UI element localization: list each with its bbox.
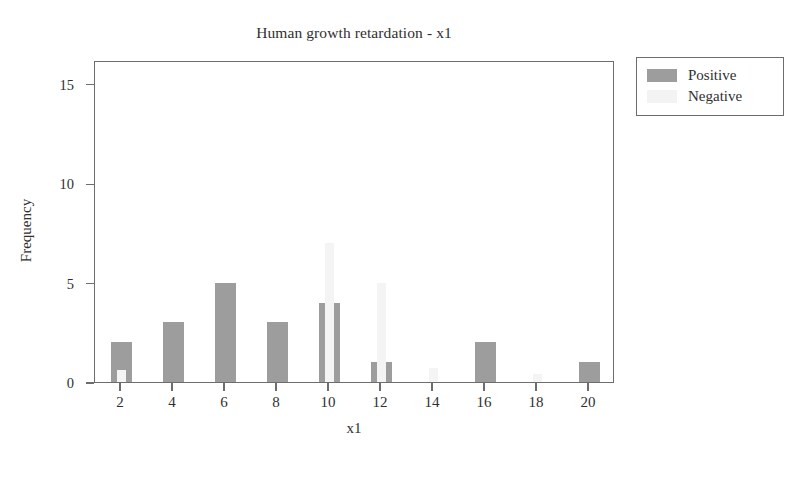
bar-group[interactable] (215, 283, 236, 382)
x-tick-label: 12 (358, 394, 402, 411)
x-tick-mark (223, 383, 224, 391)
x-tick-label: 2 (98, 394, 142, 411)
x-tick-mark (275, 383, 276, 391)
plot-frame (94, 61, 614, 383)
plot-canvas (95, 62, 613, 382)
x-tick-mark (587, 383, 588, 391)
chart-title: Human growth retardation - x1 (94, 24, 614, 42)
bar-segment-negative[interactable] (429, 368, 438, 382)
legend-item[interactable]: Positive (647, 65, 775, 86)
bar-group[interactable] (423, 368, 444, 382)
x-tick-mark (431, 383, 432, 391)
x-tick-label: 10 (306, 394, 350, 411)
x-tick-mark (379, 383, 380, 391)
legend-item-label: Negative (688, 89, 742, 104)
y-tick-label: 5 (34, 275, 74, 292)
bar-segment-positive[interactable] (267, 322, 288, 382)
bar-segment-positive[interactable] (215, 283, 236, 382)
x-tick-mark (535, 383, 536, 391)
y-axis-label: Frequency (18, 141, 35, 321)
x-tick-mark (171, 383, 172, 391)
y-tick-mark (86, 283, 94, 284)
bar-group[interactable] (579, 362, 600, 382)
x-tick-label: 4 (150, 394, 194, 411)
x-axis-label: x1 (94, 420, 614, 437)
bar-group[interactable] (475, 342, 496, 382)
x-tick-label: 20 (566, 394, 610, 411)
y-tick-label: 15 (34, 76, 74, 93)
x-tick-label: 8 (254, 394, 298, 411)
bar-segment-positive[interactable] (475, 342, 496, 382)
x-tick-label: 16 (462, 394, 506, 411)
bar-segment-negative[interactable] (117, 370, 126, 382)
bar-group[interactable] (267, 322, 288, 382)
legend-item[interactable]: Negative (647, 86, 775, 107)
chart-legend: Positive Negative (636, 57, 784, 116)
bar-segment-negative[interactable] (377, 283, 386, 382)
bar-group[interactable] (163, 322, 184, 382)
x-tick-label: 14 (410, 394, 454, 411)
bar-group[interactable] (111, 342, 132, 382)
x-tick-mark (327, 383, 328, 391)
x-tick-label: 6 (202, 394, 246, 411)
negative-swatch-icon (647, 90, 677, 103)
x-tick-mark (119, 383, 120, 391)
y-tick-label: 10 (34, 176, 74, 193)
bar-group[interactable] (527, 374, 548, 382)
bar-group[interactable] (319, 243, 340, 382)
positive-swatch-icon (647, 69, 677, 82)
bar-segment-negative[interactable] (533, 374, 542, 382)
legend-item-label: Positive (688, 68, 736, 83)
x-tick-label: 18 (514, 394, 558, 411)
chart-figure: Human growth retardation - x1 Frequency … (0, 0, 809, 481)
y-tick-mark (86, 84, 94, 85)
y-tick-mark (86, 184, 94, 185)
x-tick-mark (483, 383, 484, 391)
bar-segment-positive[interactable] (163, 322, 184, 382)
bar-group[interactable] (371, 283, 392, 382)
bar-segment-positive[interactable] (579, 362, 600, 382)
bar-segment-negative[interactable] (325, 243, 334, 382)
y-tick-mark (86, 382, 94, 383)
y-tick-label: 0 (34, 375, 74, 392)
